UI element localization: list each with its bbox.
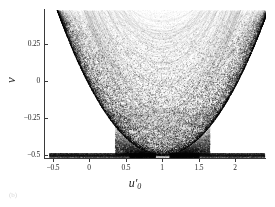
- y-tick-mark: [44, 155, 48, 156]
- y-tick-label: −0.25: [6, 113, 40, 122]
- y-tick-label: 0.25: [6, 39, 40, 48]
- x-tick-mark: [235, 158, 236, 162]
- y-axis-title: v: [3, 68, 19, 92]
- y-tick-mark: [44, 44, 48, 45]
- x-tick-mark: [199, 158, 200, 162]
- y-tick-mark: [44, 81, 48, 82]
- x-tick-label: 1.5: [186, 163, 212, 172]
- figure-caption: (b): [9, 191, 17, 199]
- x-tick-mark: [126, 158, 127, 162]
- x-axis-title-subscript: 0: [137, 182, 141, 191]
- x-tick-label: 0.5: [113, 163, 139, 172]
- scatter-canvas: [44, 10, 266, 158]
- x-tick-mark: [89, 158, 90, 162]
- x-tick-label: 2: [222, 163, 248, 172]
- x-tick-label: −0.5: [40, 163, 66, 172]
- x-tick-label: 1: [149, 163, 175, 172]
- x-axis-spine: [44, 158, 266, 159]
- x-tick-mark: [162, 158, 163, 162]
- y-tick-mark: [44, 118, 48, 119]
- plot-area: [44, 10, 266, 158]
- x-tick-mark: [53, 158, 54, 162]
- x-axis-title: u′0: [118, 176, 152, 191]
- figure-panel: 0.250−0.25−0.5 −0.500.511.52 v u′0 (b): [0, 0, 275, 207]
- x-tick-label: 0: [76, 163, 102, 172]
- y-tick-label: −0.5: [6, 150, 40, 159]
